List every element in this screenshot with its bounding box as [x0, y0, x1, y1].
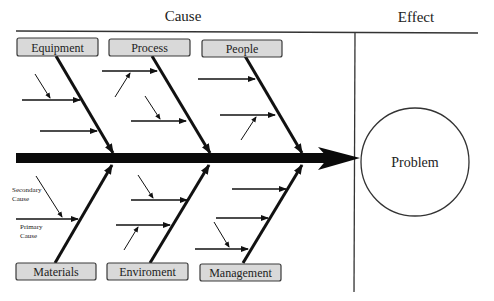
effect-node: Problem	[361, 108, 469, 216]
category-label: Equipment	[31, 41, 84, 55]
category-management: Management	[200, 264, 281, 281]
category-label: People	[226, 42, 259, 56]
bone-management	[195, 165, 302, 263]
cause-heading: Cause	[165, 8, 202, 24]
category-process: Process	[109, 39, 190, 56]
bone-process	[102, 56, 210, 153]
cause-effect-divider	[354, 32, 355, 292]
category-label: Enviroment	[119, 265, 176, 279]
primary-cause-label-2: Cause	[20, 232, 37, 240]
header-divider	[16, 31, 478, 33]
category-label: Management	[209, 266, 272, 280]
bone-materials	[16, 165, 112, 263]
secondary-cause-label-2: Cause	[12, 195, 29, 203]
spine-arrow	[16, 147, 360, 170]
secondary-cause-label-1: Secondary	[12, 186, 42, 194]
effect-heading: Effect	[398, 9, 435, 25]
category-label: Materials	[33, 265, 79, 279]
category-people: People	[202, 40, 282, 57]
bone-people	[198, 56, 302, 153]
category-label: Process	[131, 41, 168, 55]
fishbone-diagram: Cause Effect Problem	[0, 0, 494, 301]
category-environment: Enviroment	[107, 263, 188, 280]
category-equipment: Equipment	[17, 38, 98, 56]
primary-cause-label-1: Primary	[20, 223, 43, 231]
effect-label: Problem	[391, 155, 439, 170]
category-materials: Materials	[16, 263, 96, 280]
bone-equipment	[22, 56, 113, 153]
